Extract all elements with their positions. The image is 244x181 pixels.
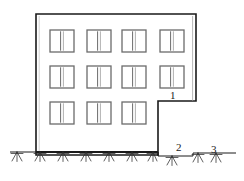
callout-label-2: 2 [176, 142, 182, 153]
window [122, 102, 146, 124]
elevation-figure: 1 2 3 [0, 0, 244, 181]
window [122, 66, 146, 88]
window [122, 30, 146, 52]
callout-label-3: 3 [211, 144, 217, 155]
elevation-drawing [0, 0, 244, 181]
window [50, 66, 74, 88]
window [87, 30, 111, 52]
window [160, 66, 184, 88]
window [87, 66, 111, 88]
callout-label-1: 1 [170, 90, 176, 101]
window [160, 30, 184, 52]
window [87, 102, 111, 124]
window [50, 30, 74, 52]
window [50, 102, 74, 124]
